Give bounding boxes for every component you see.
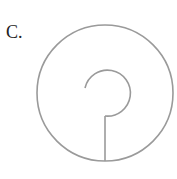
inner-arc bbox=[85, 70, 130, 116]
diagram-figure bbox=[0, 0, 177, 179]
